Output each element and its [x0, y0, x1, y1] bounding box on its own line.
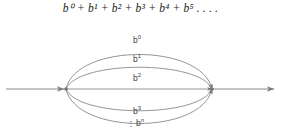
arc-label-b0: b0 — [133, 36, 141, 45]
vertical-ellipsis-icon: ⋮ — [127, 120, 135, 128]
arc-label-b2: b2 — [133, 74, 141, 83]
arc-label-bn: ⋮bn — [127, 119, 144, 128]
figure-page: b⁰ + b¹ + b² + b³ + b⁴ + b⁵ . . . . — [0, 0, 281, 136]
arc-label-b3: b3 — [133, 107, 141, 116]
arc-label-b3-exponent: 3 — [138, 105, 141, 111]
right-node — [210, 87, 214, 91]
left-node — [64, 87, 68, 91]
arc-label-bn-exponent: n — [141, 117, 144, 123]
arc-label-b1: b1 — [133, 55, 141, 64]
arc-label-b1-exponent: 1 — [138, 53, 141, 59]
arc-label-b0-exponent: 0 — [138, 34, 141, 40]
arc-label-b2-exponent: 2 — [138, 72, 141, 78]
